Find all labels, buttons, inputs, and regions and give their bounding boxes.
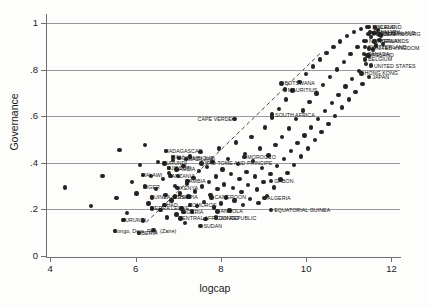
data-point (343, 84, 347, 88)
y-tick (41, 70, 46, 71)
data-point (199, 161, 203, 165)
data-point (270, 112, 274, 116)
data-point (273, 143, 277, 147)
point-label: SUDAN (203, 224, 222, 229)
y-axis-title: Governance (8, 32, 20, 212)
data-point (249, 135, 253, 139)
x-tick-label: 4 (35, 264, 65, 274)
y-tick (41, 209, 46, 210)
x-tick-label: 6 (121, 264, 151, 274)
data-point (347, 97, 351, 101)
data-point (214, 174, 218, 178)
point-label: KENYA (180, 186, 198, 191)
data-point (237, 177, 241, 181)
data-point (261, 180, 265, 184)
point-label: MAURITIUS (288, 88, 318, 93)
data-point (215, 209, 219, 213)
data-point (242, 155, 246, 159)
point-label: BELGIUM (368, 57, 392, 62)
data-point (335, 67, 339, 71)
data-point (282, 157, 286, 161)
y-tick-label: 1 (0, 18, 38, 28)
data-point (232, 117, 236, 121)
y-tick (41, 163, 46, 164)
point-label: CONGO (219, 216, 239, 221)
data-point (302, 133, 306, 137)
point-label: CAPE VERDE (198, 117, 233, 122)
data-point (117, 148, 121, 152)
data-point (100, 174, 104, 178)
x-tick-label: 10 (291, 264, 321, 274)
point-label: BURUNDI (122, 218, 146, 223)
y-axis-line (46, 14, 47, 257)
data-point (359, 71, 363, 75)
point-label: NIGER (143, 185, 160, 190)
data-point (324, 51, 328, 55)
data-point (336, 93, 340, 97)
data-point (255, 187, 259, 191)
data-point (287, 126, 291, 130)
point-label: COMOROS (188, 203, 216, 208)
y-tick (41, 256, 46, 257)
data-point (143, 143, 147, 147)
point-label: ZAMBIA (186, 179, 206, 184)
x-axis-line (46, 257, 401, 258)
data-point (217, 146, 221, 150)
data-point (342, 60, 346, 64)
data-point (377, 32, 381, 36)
data-point (256, 201, 260, 205)
data-point (331, 45, 335, 49)
x-tick (221, 257, 222, 262)
point-label: MALAWI (141, 173, 162, 178)
x-tick-label: 8 (206, 264, 236, 274)
y-tick (41, 116, 46, 117)
data-point (175, 186, 179, 190)
point-label: ETHIOPIA (173, 195, 198, 200)
data-point (138, 163, 142, 167)
data-point (355, 45, 359, 49)
data-point (366, 32, 370, 36)
data-point (299, 154, 303, 158)
scatter-plot-figure: FINLANDICELANDDENMARKNEW ZEALANDSWEDENLU… (0, 0, 430, 307)
point-label: BOTSWANA (284, 81, 315, 86)
data-point (330, 101, 334, 105)
data-point (244, 170, 248, 174)
data-point (279, 81, 283, 85)
data-point (89, 204, 93, 208)
data-point (326, 122, 330, 126)
point-label: GAMBIA (175, 167, 196, 172)
data-point (258, 146, 262, 150)
x-tick-label: 12 (376, 264, 406, 274)
data-point (285, 171, 289, 175)
point-label: UNITED STATES (374, 64, 416, 69)
gridline (46, 23, 400, 24)
point-label: GABON (274, 179, 293, 184)
data-point (353, 90, 357, 94)
gridline (46, 70, 400, 71)
data-point (219, 201, 223, 205)
data-point (284, 97, 288, 101)
data-point (363, 57, 367, 61)
data-point (340, 105, 344, 109)
plot-area: FINLANDICELANDDENMARKNEW ZEALANDSWEDENLU… (46, 14, 400, 256)
point-label: ALGERIA (267, 196, 290, 201)
y-tick-label: 0 (0, 251, 38, 261)
point-label: SOUTH AFRICA (275, 113, 315, 118)
data-point (311, 64, 315, 68)
data-point (283, 87, 287, 91)
data-point (63, 185, 67, 189)
point-label: JAPAN (372, 75, 389, 80)
data-point (214, 215, 218, 219)
point-label: ANGOLA (220, 209, 242, 214)
data-point (209, 195, 213, 199)
point-label: CAMEROON (214, 195, 246, 200)
point-label: LUXEMBOURG (383, 32, 421, 37)
data-point (215, 187, 219, 191)
y-tick (41, 23, 46, 24)
data-point (348, 52, 352, 56)
point-label: SAO TOME AND PRINCIPE (205, 161, 273, 166)
data-point (272, 185, 276, 189)
data-point (268, 172, 272, 176)
data-point (318, 57, 322, 61)
data-point (156, 160, 160, 164)
